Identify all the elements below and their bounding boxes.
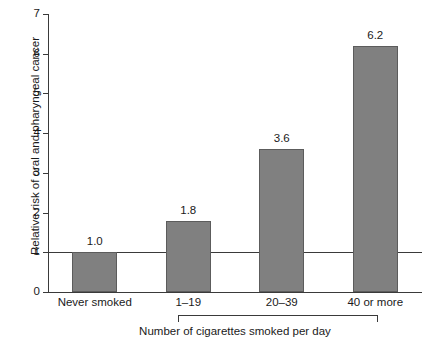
bar <box>166 221 211 292</box>
x-tick-label: 1–19 <box>142 297 236 309</box>
bar-value-label: 3.6 <box>252 133 312 145</box>
bar <box>353 46 398 292</box>
y-tick-mark <box>43 213 48 214</box>
y-tick-mark <box>43 14 48 15</box>
bar <box>259 149 304 292</box>
group-bracket <box>178 315 378 322</box>
y-axis-line <box>48 14 49 292</box>
y-tick-label: 6 <box>22 48 40 60</box>
y-tick-mark <box>43 54 48 55</box>
bar-value-label: 1.0 <box>65 236 125 248</box>
y-tick-mark <box>43 93 48 94</box>
y-tick-label: 0 <box>22 286 40 298</box>
y-tick-label: 5 <box>22 87 40 99</box>
x-tick-label: 40 or more <box>329 297 423 309</box>
bar <box>72 252 117 292</box>
y-tick-mark <box>43 133 48 134</box>
y-tick-label: 1 <box>22 246 40 258</box>
y-tick-label: 2 <box>22 207 40 219</box>
bar-chart: Relative risk of oral and pharyngeal can… <box>0 0 429 345</box>
bar-value-label: 6.2 <box>345 30 405 42</box>
bar-value-label: 1.8 <box>158 205 218 217</box>
x-tick-label: 20–39 <box>235 297 329 309</box>
x-axis-line <box>48 292 422 293</box>
y-tick-label: 7 <box>22 8 40 20</box>
y-tick-label: 4 <box>22 127 40 139</box>
x-tick-label: Never smoked <box>48 297 142 309</box>
x-axis-title: Number of cigarettes smoked per day <box>48 326 422 338</box>
y-tick-label: 3 <box>22 167 40 179</box>
y-tick-mark <box>43 173 48 174</box>
